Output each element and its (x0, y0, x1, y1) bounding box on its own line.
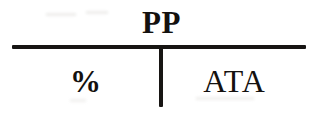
table-group-header: PP (0, 1, 319, 43)
table-column-header-percent: % (12, 55, 159, 107)
table-subheader-row: % ATA (0, 55, 319, 107)
table-group-header-label: PP (142, 7, 181, 38)
table-column-header-ata-label: ATA (203, 65, 266, 97)
scanned-table-header-fragment: PP % ATA (0, 0, 319, 114)
table-column-header-ata: ATA (163, 55, 306, 107)
table-column-header-percent-label: % (70, 66, 101, 97)
